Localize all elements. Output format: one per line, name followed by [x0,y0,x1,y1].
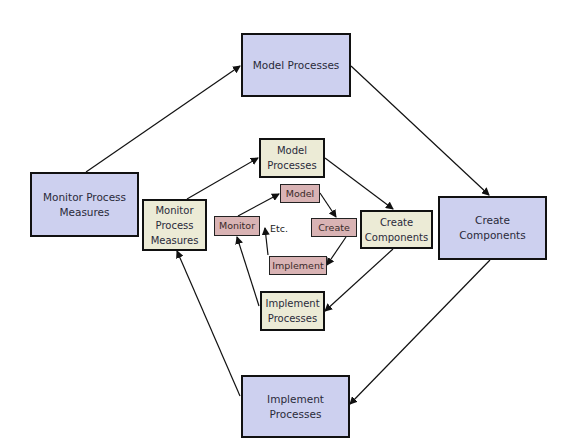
inner-create-box: Create [311,218,357,237]
arrow-outer-implement-to-middle-monitor [177,251,240,396]
outer-model-processes-box: Model Processes [241,33,351,97]
inner-monitor-label: Monitor [219,220,255,232]
inner-implement-label: Implement [272,260,323,272]
arrow-mid-implement-to-inner-monitor [237,237,259,306]
outer-monitor-process-measures-box: Monitor Process Measures [30,172,139,237]
middle-model-processes-label: Model Processes [267,143,316,173]
etc-label: Etc. [270,223,288,234]
middle-model-processes-box: Model Processes [259,138,325,178]
arrow-mid-model-to-create [325,158,393,209]
arrow-outer-model-to-create [351,66,489,195]
arrow-outer-create-to-implement [350,260,490,404]
outer-create-components-box: Create Components [438,196,547,260]
middle-implement-processes-box: Implement Processes [260,291,325,331]
inner-monitor-box: Monitor [214,216,260,236]
arrow-inner-create-to-implement [327,237,346,265]
outer-implement-processes-box: Implement Processes [241,375,350,438]
inner-model-box: Model [280,184,320,203]
inner-model-label: Model [286,188,315,200]
middle-implement-processes-label: Implement Processes [265,296,319,326]
outer-monitor-process-measures-label: Monitor Process Measures [43,190,126,220]
middle-create-components-label: Create Components [365,215,428,245]
arrow-inner-model-to-create [320,193,336,217]
arrow-inner-monitor-to-model [238,194,279,216]
outer-implement-processes-label: Implement Processes [267,392,324,422]
middle-create-components-box: Create Components [360,210,433,249]
inner-create-label: Create [318,222,350,234]
middle-monitor-process-measures-label: Monitor Process Measures [151,203,199,248]
middle-monitor-process-measures-box: Monitor Process Measures [142,199,207,251]
inner-implement-box: Implement [269,256,327,275]
outer-model-processes-label: Model Processes [253,58,340,73]
arrow-outer-monitor-to-model [86,66,240,172]
arrow-mid-create-to-implement [325,249,393,311]
arrow-mid-monitor-to-model [187,158,258,199]
arrow-inner-implement-to-etc [265,228,268,255]
outer-create-components-label: Create Components [459,213,525,243]
